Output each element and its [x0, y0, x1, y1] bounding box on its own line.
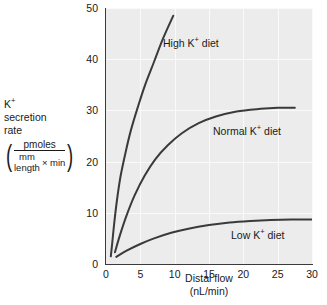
x-axis-line — [105, 264, 313, 265]
annotation-high-k-diet: High K+ diet — [163, 36, 219, 48]
unit-numerator: pmoles — [21, 139, 59, 151]
y-axis-unit-expression: ( pmoles mm length × min ) — [4, 139, 102, 173]
y-tick-label: 10 — [0, 208, 98, 219]
y-axis-title-line1: K+ — [4, 96, 102, 111]
left-paren: ( — [6, 144, 12, 167]
y-axis-title-line2: secretion — [4, 111, 102, 124]
y-axis-title-superscript: + — [11, 96, 15, 105]
annotation-normal-k-diet: Normal K+ diet — [213, 124, 281, 136]
nested-fraction: mm length — [14, 152, 40, 173]
curve-label-text: Normal K — [213, 125, 257, 137]
gridline-vertical — [312, 8, 313, 264]
unit-fraction: pmoles mm length × min — [14, 139, 65, 173]
x-axis-title: Distal flow (nL/min) — [106, 272, 312, 299]
y-tick-label: 50 — [0, 3, 98, 14]
unit-factor: × min — [42, 158, 66, 168]
curve-label-text: Low K — [231, 229, 260, 241]
y-tick-label: 40 — [0, 54, 98, 65]
nested-denominator: length — [14, 163, 40, 174]
chart-figure: 01020304050 051015202530 High K+ dietNor… — [0, 0, 327, 305]
curve-label-suffix: diet — [261, 125, 281, 137]
curve-high-k-diet — [111, 16, 173, 257]
curve-label-suffix: diet — [265, 229, 285, 241]
curve-label-text: High K — [163, 37, 195, 49]
y-tick-label: 0 — [0, 259, 98, 270]
x-axis-units-text: (nL/min) — [106, 285, 312, 298]
y-axis-title: K+ secretion rate ( pmoles mm length × m… — [4, 96, 102, 173]
curve-label-suffix: diet — [199, 37, 219, 49]
x-axis-title-text: Distal flow — [106, 272, 312, 285]
annotation-low-k-diet: Low K+ diet — [231, 228, 284, 240]
nested-numerator: mm — [19, 152, 35, 163]
unit-denominator: mm length × min — [14, 151, 65, 173]
y-axis-title-line3: rate — [4, 124, 102, 137]
right-paren: ) — [67, 144, 73, 167]
